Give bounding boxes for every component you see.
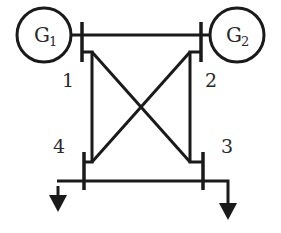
power-system-diagram: G1 G2 1 2 4 3 — [0, 0, 281, 233]
generator-g1: G1 — [17, 8, 71, 62]
load-3-feeder — [203, 181, 228, 205]
generator-g2-subscript: 2 — [241, 34, 249, 49]
generator-g2-letter: G — [226, 23, 242, 47]
load-4-arrow-icon — [49, 195, 67, 212]
generator-g2: G2 — [210, 8, 264, 62]
bus-1-label: 1 — [62, 69, 74, 91]
bus-2-label: 2 — [205, 69, 217, 91]
bus-3-label: 3 — [221, 135, 233, 157]
load-3-arrow-icon — [219, 203, 237, 220]
generator-g1-subscript: 1 — [49, 34, 57, 49]
line-1-4 — [82, 52, 92, 162]
bus-4-label: 4 — [53, 135, 65, 157]
generator-g1-letter: G — [34, 23, 50, 47]
line-2-3 — [190, 52, 203, 162]
